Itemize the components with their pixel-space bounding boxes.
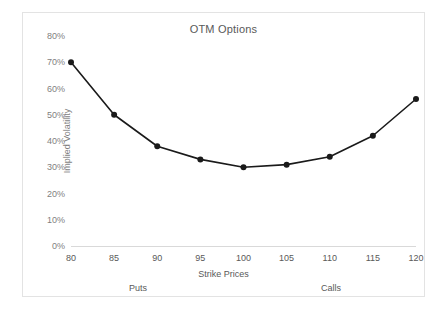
y-tick-label: 80% [47, 31, 65, 41]
data-point-marker [370, 133, 376, 139]
x-tick-label: 90 [152, 253, 162, 263]
x-tick-label: 80 [66, 253, 76, 263]
y-tick-label: 40% [47, 136, 65, 146]
y-tick-label: 10% [47, 215, 65, 225]
chart-frame: OTM Options Implied Volatility 0%10%20%3… [22, 12, 425, 297]
y-tick-label: 50% [47, 110, 65, 120]
axis-region-label-puts: Puts [129, 283, 147, 293]
data-point-marker [154, 143, 160, 149]
chart-title: OTM Options [23, 23, 424, 35]
data-point-marker [111, 112, 117, 118]
x-axis-title: Strike Prices [23, 269, 424, 279]
x-tick-label: 120 [408, 253, 423, 263]
data-point-marker [197, 156, 203, 162]
data-point-marker [68, 59, 74, 65]
data-point-marker [413, 96, 419, 102]
x-axis-line [71, 246, 416, 247]
x-tick-label: 105 [279, 253, 294, 263]
x-tick-label: 95 [195, 253, 205, 263]
data-point-marker [327, 154, 333, 160]
y-tick-label: 0% [52, 241, 65, 251]
y-tick-label: 30% [47, 162, 65, 172]
y-tick-label: 20% [47, 189, 65, 199]
implied-volatility-series [71, 36, 416, 246]
series-markers [68, 59, 419, 170]
x-tick-label: 85 [109, 253, 119, 263]
axis-region-label-calls: Calls [321, 283, 341, 293]
series-line [71, 62, 416, 167]
plot-area: 0%10%20%30%40%50%60%70%80%80859095100105… [71, 36, 416, 246]
x-tick-label: 100 [236, 253, 251, 263]
y-tick-label: 60% [47, 84, 65, 94]
data-point-marker [241, 164, 247, 170]
data-point-marker [284, 162, 290, 168]
y-tick-label: 70% [47, 57, 65, 67]
x-tick-label: 110 [323, 253, 337, 263]
x-tick-label: 115 [366, 253, 380, 263]
